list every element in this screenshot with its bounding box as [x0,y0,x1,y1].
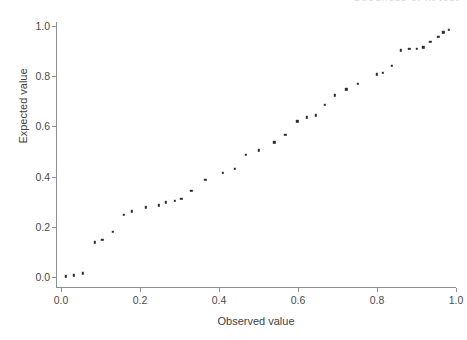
data-point [345,88,347,90]
x-tick-label: 1.0 [449,294,464,306]
y-tick-label: 0.2 [3,221,50,233]
data-point [391,65,393,67]
data-point [190,190,192,192]
data-point [315,114,317,116]
data-point [144,206,146,208]
x-tick-label: 0.2 [133,294,148,306]
x-axis-title: Observed value [56,315,456,327]
data-point [101,239,103,241]
x-axis-line [56,287,456,288]
x-tick [219,288,220,292]
x-tick [298,288,299,292]
y-axis-title: Expected value [17,36,29,176]
x-tick-label: 0.6 [291,294,306,306]
data-point [415,47,417,49]
data-point [164,201,166,203]
y-tick-label: 1.0 [3,20,50,32]
x-tick [140,288,141,292]
data-point [180,198,182,200]
data-point [273,141,275,143]
data-point [399,49,401,51]
data-point [157,204,159,206]
x-tick-label: 0.0 [54,294,69,306]
data-point [82,272,84,274]
data-point [437,35,439,37]
data-point [284,133,286,135]
data-point [112,230,114,232]
data-point [324,104,326,106]
x-tick-label: 0.8 [370,294,385,306]
x-tick [456,288,457,292]
plot-data-area [56,22,456,287]
data-point [429,40,431,42]
data-point [204,179,206,181]
data-point [357,83,359,85]
data-point [174,199,176,201]
data-point [422,46,424,48]
data-point [65,275,67,277]
x-tick-label: 0.4 [212,294,227,306]
data-point [131,210,133,212]
data-point [408,48,410,50]
data-point [257,149,259,151]
data-point [334,94,336,96]
data-point [123,213,125,215]
y-tick-label: 0.0 [3,271,50,283]
data-point [221,172,223,174]
top-caption-text: Goodness of fit test [352,0,459,3]
data-point [296,120,298,122]
data-point [442,31,444,33]
data-point [306,116,308,118]
x-tick [61,288,62,292]
data-point [94,241,96,243]
scatter-plot-figure: Goodness of fit test 0.00.20.40.60.81.0 … [0,0,467,340]
x-tick [377,288,378,292]
data-point [448,29,450,31]
data-point [245,154,247,156]
data-point [73,274,75,276]
data-point [382,72,384,74]
data-point [376,73,378,75]
data-point [234,167,236,169]
